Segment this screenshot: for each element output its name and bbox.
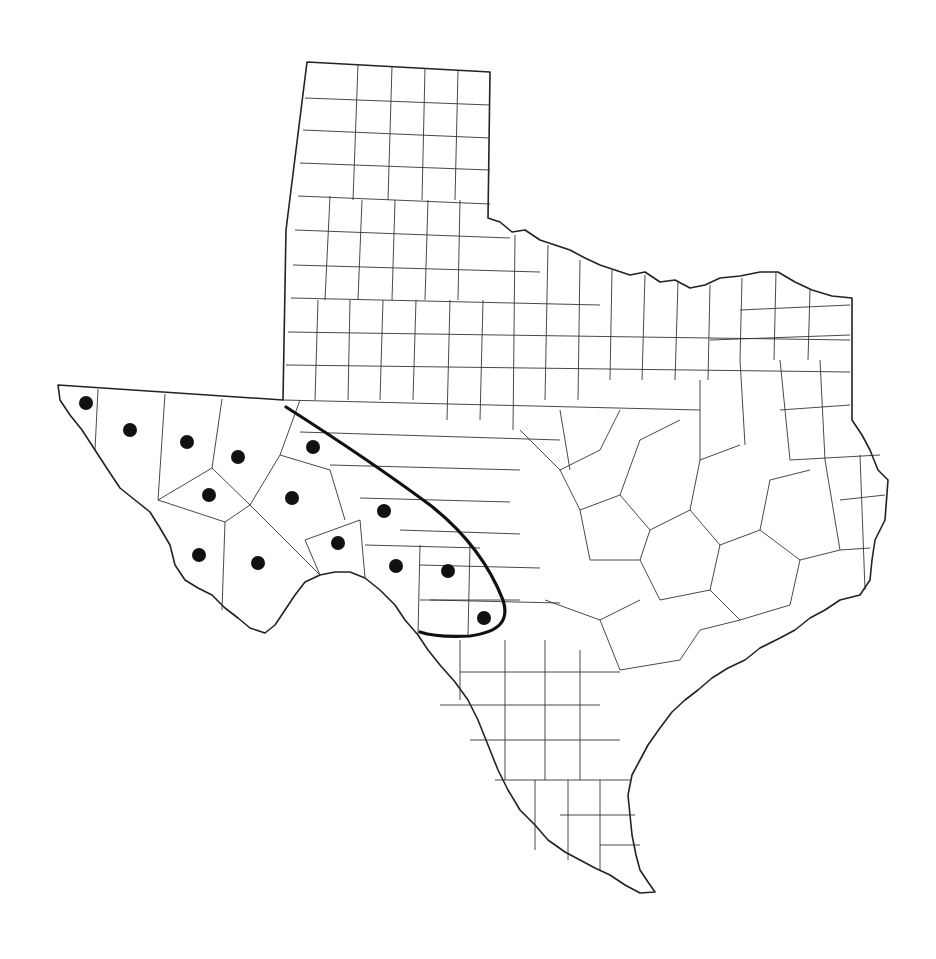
occurrence-dot	[251, 556, 265, 570]
occurrence-dot	[202, 488, 216, 502]
occurrence-dot	[377, 504, 391, 518]
occurrence-dot	[123, 423, 137, 437]
occurrence-dot	[441, 564, 455, 578]
occurrence-dot	[192, 548, 206, 562]
occurrence-dot	[180, 435, 194, 449]
occurrence-dot	[477, 611, 491, 625]
texas-county-map	[0, 0, 936, 959]
occurrence-dot	[285, 491, 299, 505]
texas-state-outline	[58, 62, 888, 893]
occurrence-dot	[331, 536, 345, 550]
occurrence-dot	[79, 396, 93, 410]
occurrence-dot	[231, 450, 245, 464]
occurrence-dot	[306, 440, 320, 454]
occurrence-dot	[389, 559, 403, 573]
